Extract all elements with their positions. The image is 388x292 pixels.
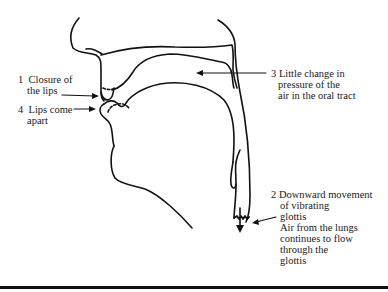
label-3-number: 3 xyxy=(271,68,276,79)
hard-palate-upper xyxy=(101,45,237,88)
label-1-line-1: Closure of xyxy=(29,74,73,85)
label-4-line-1: Lips come xyxy=(29,104,73,115)
label-2-line-5: continues to flow xyxy=(280,233,353,244)
label-glottis-movement: 2 Downward movement of vibrating glottis… xyxy=(271,189,372,266)
arrow-label-4-head xyxy=(89,106,96,112)
epiglottis xyxy=(231,150,240,188)
face-profile-upper xyxy=(71,18,104,101)
arrow-label-1-head xyxy=(92,93,99,99)
label-2-line-4: Air from the lungs xyxy=(280,222,358,233)
label-3-line-1: Little change in xyxy=(279,68,345,79)
label-2-line-6: through the xyxy=(280,244,328,255)
chin-neck xyxy=(111,146,192,228)
larynx-front xyxy=(234,184,236,218)
label-2-line-3: glottis xyxy=(280,211,306,222)
bottom-rule-divider xyxy=(0,286,388,289)
label-lips-come-apart: 4 Lips come apart xyxy=(18,104,73,126)
vocal-tract-diagram: 1 Closure of the lips 4 Lips come apart … xyxy=(0,0,388,292)
label-2-line-1: Downward movement xyxy=(279,189,373,200)
label-1-number: 1 xyxy=(18,74,23,85)
glottis-down-arrow-head xyxy=(236,225,244,233)
oral-roof xyxy=(112,54,234,90)
pharynx-back-wall xyxy=(218,20,250,222)
label-4-number: 4 xyxy=(18,104,23,115)
label-2-line-7: glottis xyxy=(280,255,306,266)
label-3-line-2: pressure of the xyxy=(278,79,340,90)
arrow-label-3-head xyxy=(196,70,203,76)
lower-lip xyxy=(100,104,114,146)
glottis-zigzag xyxy=(234,216,249,219)
label-2-line-2: of vibrating xyxy=(280,200,329,211)
arrow-label-2-head xyxy=(252,219,259,225)
label-2-number: 2 xyxy=(271,189,276,200)
label-1-line-2: the lips xyxy=(27,85,58,96)
label-3-line-3: air in the oral tract xyxy=(278,90,356,101)
label-4-line-2: apart xyxy=(27,115,48,126)
tongue-surface xyxy=(104,83,234,162)
lip-closure-dashed xyxy=(103,88,116,90)
label-oral-tract-pressure: 3 Little change in pressure of the air i… xyxy=(271,68,356,101)
label-closure-of-lips: 1 Closure of the lips xyxy=(18,74,73,96)
